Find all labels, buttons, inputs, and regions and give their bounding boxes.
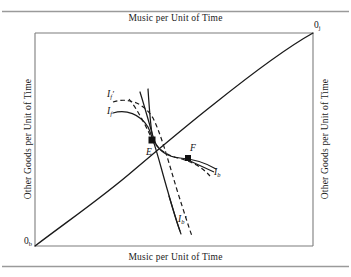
origin-label-top-right: 0j [314,20,321,30]
origin-b-subscript: b [29,240,32,247]
axis-title-left: Other Goods per Unit of Time [23,49,33,229]
axis-title-top: Music per Unit of Time [0,13,351,23]
point-marker-e [149,137,156,144]
point-label-f: F [190,143,196,153]
curve-label-ib-prime: Ib′ [178,214,186,224]
curve-label-if-prime: If′ [107,89,114,99]
ib-subscript: b [217,171,220,178]
origin-label-bottom-left: 0b [24,236,32,246]
diagram-canvas [0,0,351,277]
point-marker-f [185,155,191,161]
curve-label-if: If [107,106,112,116]
page-frame [2,12,349,267]
if-prime-mark: ′ [112,89,114,99]
ib-prime-subscript: b [181,218,184,225]
edgeworth-box-figure: Music per Unit of Time Music per Unit of… [0,0,351,277]
curve-label-ib: Ib [214,167,220,177]
ib-prime-mark: ′ [184,214,186,224]
origin-j-subscript: j [319,24,321,31]
axis-title-bottom: Music per Unit of Time [0,252,351,262]
axis-title-right: Other Goods per Unit of Time [320,49,330,229]
if-prime-subscript: f [110,93,112,100]
indifference-curve-if [113,112,180,231]
if-subscript: f [110,110,112,117]
point-label-e: E [146,147,152,157]
